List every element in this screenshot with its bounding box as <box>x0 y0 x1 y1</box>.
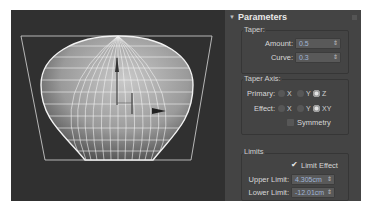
primary-x-radio[interactable] <box>278 90 285 97</box>
lower-limit-label: Lower Limit: <box>241 188 289 197</box>
primary-y-label[interactable]: Y <box>306 90 311 97</box>
amount-label: Amount: <box>245 39 293 48</box>
rollout-title: Parameters <box>238 12 287 22</box>
lower-limit-value[interactable]: -12.01cm <box>295 188 324 197</box>
primary-y-radio[interactable] <box>297 90 304 97</box>
primary-z-label[interactable]: Z <box>322 90 326 97</box>
effect-y-radio[interactable] <box>297 105 304 112</box>
spinner-arrows-icon[interactable]: ⇕ <box>327 188 332 197</box>
limits-group-label: Limits <box>243 147 265 156</box>
effect-xy-radio[interactable] <box>313 105 320 112</box>
effect-label: Effect: <box>239 104 275 113</box>
parameters-panel: ▼ Parameters Taper: Amount: 0.5 ⇕ Curve:… <box>225 10 361 201</box>
upper-limit-label: Upper Limit: <box>241 175 289 184</box>
spinner-arrows-icon[interactable]: ⇕ <box>333 39 338 48</box>
taper-group-label: Taper: <box>243 25 266 34</box>
taper-axis-group-label: Taper Axis: <box>243 74 282 83</box>
effect-xy-label[interactable]: XY <box>322 105 331 112</box>
primary-z-radio[interactable] <box>313 90 320 97</box>
amount-spinner[interactable]: 0.5 ⇕ <box>295 38 341 49</box>
primary-x-label[interactable]: X <box>287 90 292 97</box>
curve-label: Curve: <box>245 53 293 62</box>
tapered-sphere-wireframe <box>11 10 225 201</box>
amount-value[interactable]: 0.5 <box>299 39 309 48</box>
parameters-rollout-header[interactable]: ▼ Parameters <box>225 12 361 24</box>
rollout-grip-icon <box>352 15 357 20</box>
limit-effect-check-icon[interactable]: ✔ <box>291 161 298 169</box>
lower-limit-spinner[interactable]: -12.01cm ⇕ <box>291 187 335 198</box>
collapse-triangle-icon[interactable]: ▼ <box>229 14 235 20</box>
upper-limit-value[interactable]: 4.305cm <box>295 175 322 184</box>
limit-effect-label[interactable]: Limit Effect <box>301 161 338 170</box>
spinner-arrows-icon[interactable]: ⇕ <box>327 175 332 184</box>
curve-value[interactable]: 0.3 <box>299 53 309 62</box>
viewport[interactable] <box>11 10 225 201</box>
primary-label: Primary: <box>239 89 275 98</box>
upper-limit-spinner[interactable]: 4.305cm ⇕ <box>291 174 335 185</box>
spinner-arrows-icon[interactable]: ⇕ <box>333 53 338 62</box>
symmetry-label[interactable]: Symmetry <box>297 118 331 127</box>
symmetry-checkbox[interactable] <box>287 119 294 126</box>
curve-spinner[interactable]: 0.3 ⇕ <box>295 52 341 63</box>
app-frame: ▼ Parameters Taper: Amount: 0.5 ⇕ Curve:… <box>11 10 361 201</box>
effect-y-label[interactable]: Y <box>306 105 311 112</box>
effect-x-label[interactable]: X <box>287 105 292 112</box>
effect-x-radio[interactable] <box>278 105 285 112</box>
